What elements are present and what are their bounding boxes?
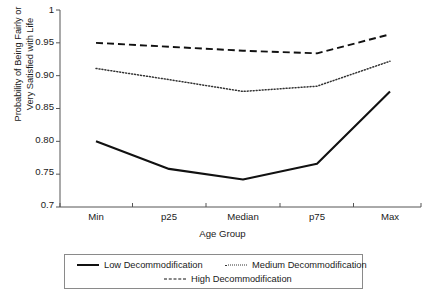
legend-swatch-dotted-icon	[225, 261, 247, 270]
legend-swatch-solid-icon	[77, 261, 99, 270]
x-tick-label-p75: p75	[309, 212, 325, 222]
x-axis-title-text: Age Group	[199, 228, 245, 239]
legend-label-low: Low Decommodification	[104, 260, 203, 270]
series-line-solid	[96, 91, 390, 179]
chart-figure: Probability of Being Fairly or Very Sati…	[0, 0, 427, 297]
x-tick-label-max: Max	[381, 212, 399, 222]
series-line-dotted	[96, 61, 390, 91]
series-line-dashed	[96, 34, 390, 53]
x-tick-label-median: Median	[227, 212, 258, 222]
legend-item-high: High Decommodification	[164, 274, 292, 284]
x-axis-title: Age Group	[0, 228, 427, 239]
chart-legend: Low Decommodification Medium Decommodifi…	[64, 254, 363, 289]
legend-swatch-dashed-icon	[164, 275, 186, 284]
x-tick-label-min: Min	[88, 212, 103, 222]
legend-item-medium: Medium Decommodification	[225, 260, 367, 270]
legend-item-low: Low Decommodification	[77, 260, 203, 270]
legend-label-high: High Decommodification	[191, 274, 292, 284]
plot-area	[0, 0, 427, 297]
legend-label-medium: Medium Decommodification	[252, 260, 367, 270]
x-tick-label-p25: p25	[161, 212, 177, 222]
